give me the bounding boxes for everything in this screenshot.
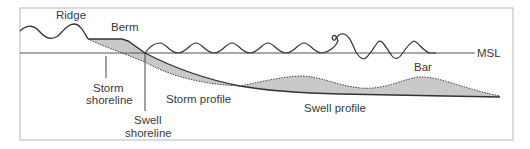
swell-profile-label: Swell profile (304, 102, 366, 114)
swell-shoreline-label-line2: shoreline (125, 127, 172, 139)
berm-label: Berm (111, 21, 138, 33)
beach-profile-diagram: Ridge Berm MSL Bar Storm shoreline Swell… (0, 0, 530, 149)
breaking-wave (322, 34, 436, 59)
ridge-profile (20, 24, 88, 39)
ridge-label: Ridge (56, 9, 86, 21)
bar-shaded-region (240, 76, 500, 97)
msl-label: MSL (477, 47, 501, 59)
storm-profile-label: Storm profile (166, 93, 231, 105)
swell-waves (145, 43, 322, 53)
diagram-frame (20, 8, 513, 140)
bar-label: Bar (414, 61, 432, 73)
storm-shoreline-label-line1: Storm (93, 82, 124, 94)
storm-shoreline-label-line2: shoreline (86, 94, 133, 106)
swell-shoreline-label-line1: Swell (134, 114, 161, 126)
